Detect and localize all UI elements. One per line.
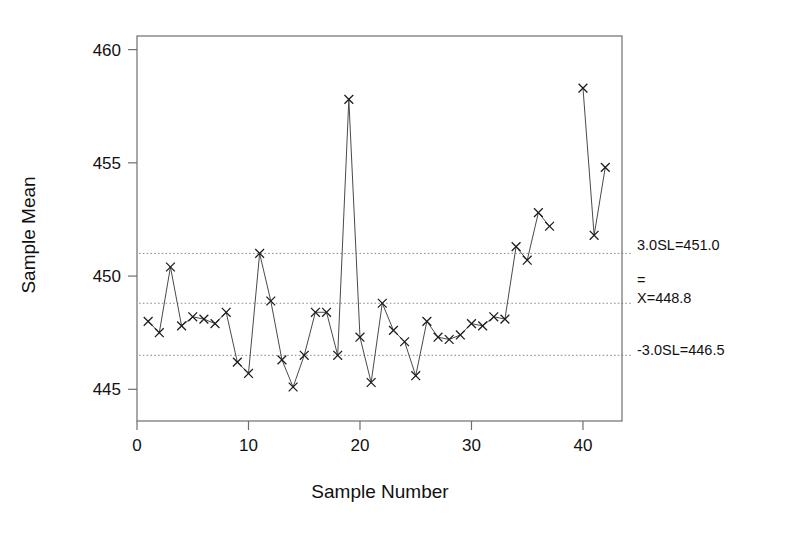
control-chart-canvas: 010203040 445450455460 Sample Number Sam… [0,0,805,538]
y-tick-label-460: 460 [93,41,121,60]
center-line-annotation: X=448.8 [637,290,691,306]
x-tick-label-0: 0 [132,436,141,455]
x-tick-label-40: 40 [574,436,593,455]
center-line-overbar: = [637,272,645,288]
x-tick-label-20: 20 [351,436,370,455]
y-tick-label-450: 450 [93,267,121,286]
y-tick-label-455: 455 [93,154,121,173]
x-tick-label-10: 10 [239,436,258,455]
x-axis-title: Sample Number [311,481,449,502]
y-tick-label-445: 445 [93,380,121,399]
control-chart: 010203040 445450455460 Sample Number Sam… [0,0,805,538]
lcl-annotation: -3.0SL=446.5 [637,342,724,358]
ucl-annotation: 3.0SL=451.0 [637,237,720,253]
y-axis-title: Sample Mean [18,176,39,293]
x-tick-label-30: 30 [462,436,481,455]
